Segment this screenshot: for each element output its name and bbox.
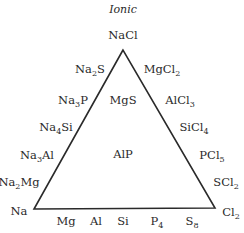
label-na3al: Na3Al xyxy=(20,150,54,162)
label-sicl4: SiCl4 xyxy=(179,122,208,134)
apex-label-nacl: NaCl xyxy=(108,30,137,42)
label-scl2: SCl2 xyxy=(213,177,238,189)
label-alcl3: AlCl3 xyxy=(165,95,195,107)
label-s8: S8 xyxy=(186,216,199,228)
label-na2mg: Na2Mg xyxy=(0,177,40,189)
label-alp: AlP xyxy=(113,149,133,161)
label-mgs: MgS xyxy=(109,95,136,107)
label-na2s: Na2S xyxy=(75,64,105,76)
label-na4si: Na4Si xyxy=(39,122,73,134)
ionic-title: Ionic xyxy=(109,4,137,15)
label-pcl5: PCl5 xyxy=(199,150,224,162)
corner-label-na: Na xyxy=(11,206,28,218)
label-si: Si xyxy=(117,216,129,228)
corner-label-cl2: Cl2 xyxy=(222,207,240,219)
label-p4: P4 xyxy=(151,216,164,228)
label-na3p: Na3P xyxy=(58,95,88,107)
label-mg: Mg xyxy=(56,216,75,228)
label-al: Al xyxy=(90,216,102,228)
label-mgcl2: MgCl2 xyxy=(144,64,181,76)
